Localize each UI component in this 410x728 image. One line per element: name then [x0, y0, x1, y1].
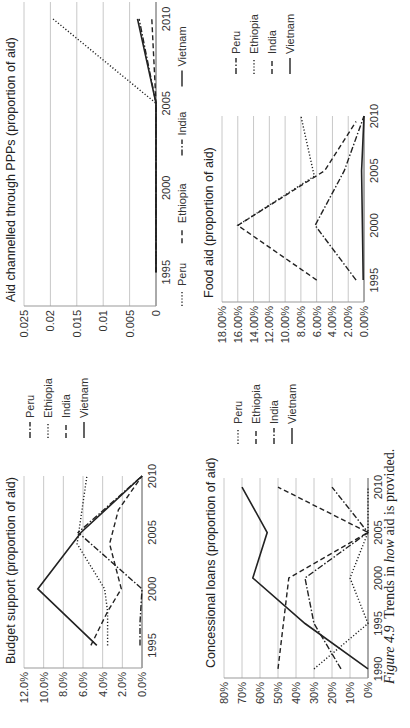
legend-label: Peru — [176, 263, 188, 286]
series-line-india — [139, 19, 156, 272]
y-tick-label: 0.01 — [97, 310, 109, 331]
y-tick-label: 12.0% — [18, 672, 30, 703]
y-tick-label: 16.00% — [232, 306, 244, 344]
series-line-india — [91, 476, 142, 645]
y-tick-label: 0.025 — [18, 310, 30, 338]
x-tick-label: 1995 — [368, 268, 380, 292]
y-tick-label: 30% — [308, 682, 320, 704]
y-tick-label: 8.00% — [295, 306, 307, 337]
y-tick-label: 0.015 — [71, 310, 83, 338]
x-tick-label: 2010 — [368, 104, 380, 128]
chart-plot: 0%10%20%30%40%50%60%70%80%19901995200020… — [200, 364, 390, 728]
legend-label: Vietnam — [176, 26, 188, 66]
legend-label: India — [268, 399, 280, 424]
y-tick-label: 0.02 — [44, 310, 56, 331]
y-tick-label: 10.00% — [279, 306, 291, 344]
y-tick-label: 18.00% — [216, 306, 228, 344]
y-tick-label: 2.00% — [342, 306, 354, 337]
series-line-vietnam — [242, 487, 368, 669]
y-tick-label: 0.0% — [136, 672, 148, 697]
x-tick-label: 1995 — [146, 633, 158, 657]
y-tick-label: 60% — [254, 682, 266, 704]
legend-label: Ethiopia — [250, 383, 262, 424]
x-tick-label: 2000 — [146, 577, 158, 601]
y-tick-label: 80% — [218, 682, 230, 704]
y-tick-label: 14.00% — [248, 306, 260, 344]
series-line-vietnam — [38, 476, 142, 645]
chart-plot: 0.0%2.0%4.0%6.0%8.0%10.0%12.0%1995200020… — [0, 364, 190, 728]
chart-concessional-loans: Concessional loans (proportion of aid) 0… — [200, 364, 390, 728]
y-tick-label: 40% — [290, 682, 302, 704]
y-tick-label: 0 — [150, 310, 162, 316]
legend-label: Vietnam — [78, 378, 90, 418]
y-tick-label: 0.00% — [358, 306, 370, 337]
caption-pre: Trends in — [382, 562, 397, 618]
y-tick-label: 70% — [236, 682, 248, 704]
x-tick-label: 2000 — [368, 213, 380, 237]
y-tick-label: 6.0% — [77, 672, 89, 697]
caption-emphasis: how — [382, 539, 397, 562]
legend-label: Peru — [232, 401, 244, 424]
series-line-peru — [315, 116, 364, 280]
y-tick-label: 20% — [326, 682, 338, 704]
x-tick-label: 2005 — [368, 158, 380, 182]
x-tick-label: 2000 — [160, 176, 172, 200]
legend-label: Peru — [24, 395, 36, 418]
series-line-ethiopia — [238, 116, 314, 225]
x-tick-label: 2010 — [146, 464, 158, 488]
y-tick-label: 10% — [344, 682, 356, 704]
legend-label: Ethiopia — [248, 13, 260, 54]
legend-label: India — [60, 393, 72, 418]
y-tick-label: 4.00% — [326, 306, 338, 337]
chart-budget-support: Budget support (proportion of aid) 0.0%2… — [0, 364, 190, 728]
legend-label: Vietnam — [286, 384, 298, 424]
y-tick-label: 12.00% — [263, 306, 275, 344]
y-tick-label: 50% — [272, 682, 284, 704]
figure-caption: Figure 4.9 Trends in how aid is provided… — [382, 449, 398, 684]
y-tick-label: 10.0% — [38, 672, 50, 703]
legend-label: India — [266, 29, 278, 54]
x-tick-label: 2010 — [160, 7, 172, 31]
y-tick-label: 6.00% — [311, 306, 323, 337]
y-tick-label: 8.0% — [57, 672, 69, 697]
y-tick-label: 0% — [362, 682, 374, 698]
chart-plot: 0.00%2.00%4.00%6.00%8.00%10.00%12.00%14.… — [200, 0, 390, 364]
series-line-peru — [78, 476, 142, 645]
x-tick-label: 2005 — [160, 91, 172, 115]
legend-label: India — [176, 111, 188, 136]
x-tick-label: 2005 — [146, 520, 158, 544]
legend-label: Ethiopia — [176, 183, 188, 224]
figure-label: Figure 4.9 — [382, 625, 397, 684]
legend-label: Vietnam — [284, 14, 296, 54]
y-tick-label: 4.0% — [97, 672, 109, 697]
chart-food-aid: Food aid (proportion of aid) 0.00%2.00%4… — [200, 0, 390, 364]
series-line-peru — [53, 19, 156, 272]
legend-label: Peru — [230, 31, 242, 54]
x-tick-label: 1995 — [160, 260, 172, 284]
y-tick-label: 2.0% — [116, 672, 128, 697]
series-line-india — [238, 122, 356, 281]
caption-post: aid is provided. — [382, 449, 397, 539]
series-line-peru — [314, 487, 368, 669]
legend-label: Ethiopia — [42, 377, 54, 418]
y-tick-label: 0.005 — [124, 310, 136, 338]
chart-plot: 00.0050.010.0150.020.0251995200020052010… — [0, 0, 200, 364]
rotated-page: Budget support (proportion of aid) 0.0%2… — [0, 0, 410, 728]
chart-ppp-aid: Aid channelled through PPPs (proportion … — [0, 0, 190, 364]
